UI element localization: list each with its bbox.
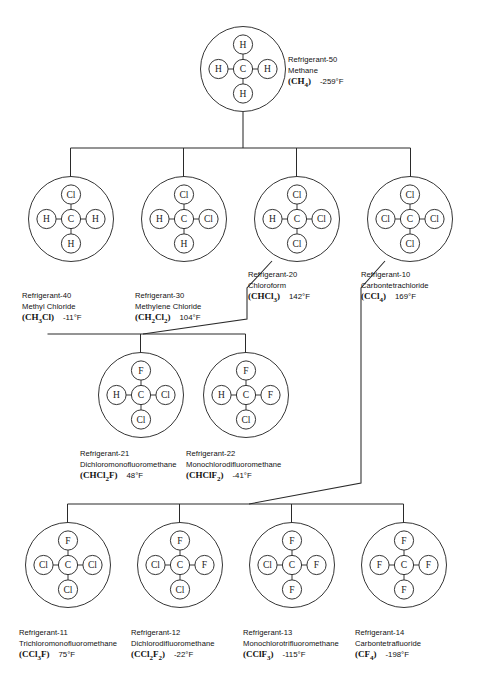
caption-r22: Refrigerant-22Monochlorodifluoromethane(… bbox=[186, 449, 281, 485]
boiling-point: 104°F bbox=[180, 313, 201, 324]
atom-left-cl: Cl bbox=[258, 555, 277, 574]
caption-r21: Refrigerant-21Dichloromonofluoromethane(… bbox=[80, 449, 177, 485]
caption-r13: Refrigerant-13Monochlorotrifluoromethane… bbox=[243, 628, 339, 664]
svg-text:H: H bbox=[240, 40, 247, 50]
svg-text:Cl: Cl bbox=[317, 214, 326, 224]
svg-text:C: C bbox=[289, 560, 295, 570]
atom-left-h: H bbox=[209, 59, 228, 78]
svg-text:F: F bbox=[401, 536, 406, 546]
molecule-r14[interactable]: FFFFC bbox=[361, 522, 447, 608]
refrigerant-number: Refrigerant-10 bbox=[361, 270, 429, 281]
refrigerant-number: Refrigerant-20 bbox=[248, 270, 310, 281]
atom-right-f: F bbox=[307, 555, 326, 574]
boiling-point: -115°F bbox=[283, 650, 306, 661]
svg-text:C: C bbox=[68, 214, 74, 224]
formula-and-boiling-point: (CCl3F)75°F bbox=[19, 649, 117, 663]
atom-bottom-cl: Cl bbox=[236, 410, 255, 429]
atom-bottom-h: H bbox=[174, 234, 193, 253]
atom-left-f: F bbox=[370, 555, 389, 574]
svg-text:H: H bbox=[240, 89, 247, 99]
svg-text:Cl: Cl bbox=[263, 560, 272, 570]
atom-center-carbon: C bbox=[233, 59, 252, 78]
svg-text:Cl: Cl bbox=[430, 214, 439, 224]
refrigerant-number: Refrigerant-11 bbox=[19, 628, 117, 639]
atom-bottom-h: H bbox=[61, 234, 80, 253]
chemical-name: Methylene Chloride bbox=[135, 302, 201, 313]
atom-right-cl: Cl bbox=[425, 209, 444, 228]
atom-center-carbon: C bbox=[287, 209, 306, 228]
svg-text:Cl: Cl bbox=[64, 585, 73, 595]
svg-text:F: F bbox=[177, 536, 182, 546]
atom-left-cl: Cl bbox=[146, 555, 165, 574]
formula-and-boiling-point: (CH3Cl)-11°F bbox=[22, 312, 82, 326]
atom-top-h: H bbox=[233, 35, 252, 54]
molecule-r30[interactable]: ClHClHC bbox=[141, 176, 227, 262]
boiling-point: 48°F bbox=[127, 471, 144, 482]
boiling-point: 169°F bbox=[395, 292, 416, 303]
caption-r11: Refrigerant-11Trichloromonofluoromethane… bbox=[19, 628, 117, 664]
svg-text:F: F bbox=[65, 536, 70, 546]
atom-left-h: H bbox=[107, 385, 126, 404]
svg-text:Cl: Cl bbox=[293, 239, 302, 249]
chemical-formula: (CCl2F2) bbox=[131, 649, 165, 659]
refrigerant-number: Refrigerant-12 bbox=[131, 628, 214, 639]
atom-left-cl: Cl bbox=[34, 555, 53, 574]
svg-text:H: H bbox=[92, 214, 99, 224]
molecule-r20[interactable]: ClHClClC bbox=[254, 176, 340, 262]
formula-and-boiling-point: (CCl2F2)-22°F bbox=[131, 649, 214, 663]
atom-center-carbon: C bbox=[400, 209, 419, 228]
caption-r10: Refrigerant-10Carbontetrachloride(CCl4)1… bbox=[361, 270, 429, 306]
svg-text:Cl: Cl bbox=[137, 415, 146, 425]
chemical-formula: (CH3Cl) bbox=[22, 312, 54, 322]
svg-text:C: C bbox=[177, 560, 183, 570]
atom-bottom-cl: Cl bbox=[400, 234, 419, 253]
caption-r12: Refrigerant-12Dichlorodifluoromethane(CC… bbox=[131, 628, 214, 664]
chemical-name: Chloroform bbox=[248, 281, 310, 292]
chemical-name: Monochlorotrifluoromethane bbox=[243, 639, 339, 650]
svg-text:F: F bbox=[289, 536, 294, 546]
molecule-r11[interactable]: FClClClC bbox=[25, 522, 111, 608]
svg-text:F: F bbox=[426, 560, 431, 570]
chemical-name: Monochlorodifluoromethane bbox=[186, 460, 281, 471]
svg-text:C: C bbox=[294, 214, 300, 224]
molecule-r13[interactable]: FClFFC bbox=[249, 522, 335, 608]
boiling-point: -41°F bbox=[233, 471, 252, 482]
atom-center-carbon: C bbox=[174, 209, 193, 228]
formula-and-boiling-point: (CCl4)169°F bbox=[361, 291, 429, 305]
molecule-r50[interactable]: HHHHC bbox=[200, 26, 286, 112]
formula-and-boiling-point: (CF4)-198°F bbox=[355, 649, 421, 663]
atom-left-h: H bbox=[263, 209, 282, 228]
boiling-point: -259°F bbox=[320, 77, 344, 88]
chemical-name: Dichlorodifluoromethane bbox=[131, 639, 214, 650]
svg-text:Cl: Cl bbox=[161, 390, 170, 400]
svg-text:F: F bbox=[377, 560, 382, 570]
atom-right-f: F bbox=[419, 555, 438, 574]
svg-text:Cl: Cl bbox=[242, 415, 251, 425]
atom-right-h: H bbox=[86, 209, 105, 228]
svg-text:Cl: Cl bbox=[151, 560, 160, 570]
svg-text:Cl: Cl bbox=[293, 190, 302, 200]
molecule-r12[interactable]: FClFClC bbox=[137, 522, 223, 608]
atom-bottom-cl: Cl bbox=[287, 234, 306, 253]
svg-text:F: F bbox=[138, 366, 143, 376]
molecule-r21[interactable]: FHClClC bbox=[98, 352, 184, 438]
svg-text:H: H bbox=[181, 239, 188, 249]
molecule-r40[interactable]: ClHHHC bbox=[28, 176, 114, 262]
svg-text:Cl: Cl bbox=[180, 190, 189, 200]
molecule-r10[interactable]: ClClClClC bbox=[367, 176, 453, 262]
atom-right-cl: Cl bbox=[312, 209, 331, 228]
svg-text:Cl: Cl bbox=[88, 560, 97, 570]
chemical-formula: (CH2Cl2) bbox=[135, 312, 171, 322]
atom-top-f: F bbox=[236, 361, 255, 380]
svg-text:F: F bbox=[401, 585, 406, 595]
atom-right-h: H bbox=[258, 59, 277, 78]
chemical-formula: (CCl4) bbox=[361, 291, 386, 301]
atom-center-carbon: C bbox=[61, 209, 80, 228]
caption-r40: Refrigerant-40Methyl Chloride(CH3Cl)-11°… bbox=[22, 291, 82, 327]
atom-top-f: F bbox=[58, 531, 77, 550]
molecule-r22[interactable]: FHFClC bbox=[203, 352, 289, 438]
chemical-formula: (CHClF2) bbox=[186, 470, 224, 480]
svg-text:H: H bbox=[264, 64, 271, 74]
chemical-name: Trichloromonofluoromethane bbox=[19, 639, 117, 650]
refrigerant-number: Refrigerant-50 bbox=[288, 55, 344, 66]
